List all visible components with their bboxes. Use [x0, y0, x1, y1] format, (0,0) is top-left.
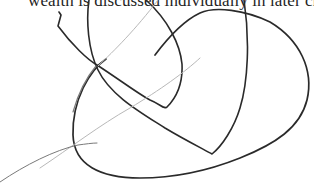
light-long-diagonal-stroke [40, 58, 200, 168]
dark-leaf-loop-stroke [58, 0, 182, 108]
dark-tall-arc-stroke [88, 0, 248, 154]
dark-large-oval-stroke [73, 10, 309, 178]
document-page: wealth is discussed individually in late… [0, 0, 314, 192]
hand-drawn-annotation [0, 0, 314, 192]
light-upper-diagonal-stroke [98, 0, 158, 66]
